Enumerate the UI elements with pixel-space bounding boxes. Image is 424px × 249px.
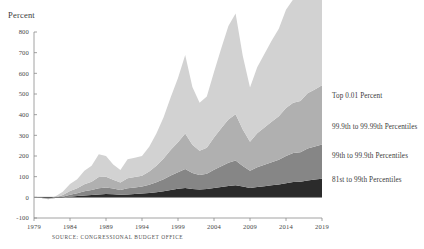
y-tick-label-200: 200 [19, 152, 30, 159]
x-tick-label-1979: 1979 [27, 223, 41, 230]
legend-label-top-0-01-percent: Top 0.01 Percent [332, 92, 382, 100]
x-tick-label-1999: 1999 [171, 223, 185, 230]
source-note: SOURCE: CONGRESSIONAL BUDGET OFFICE [52, 234, 183, 240]
x-tick-label-1994: 1994 [135, 223, 149, 230]
x-tick-label-2004: 2004 [207, 223, 221, 230]
x-tick-label-1989: 1989 [99, 223, 113, 230]
y-tick-label-300: 300 [19, 132, 30, 139]
y-tick-label-100: 100 [19, 173, 30, 180]
y-tick-label-500: 500 [19, 90, 30, 97]
x-tick-label-2019: 2019 [315, 223, 329, 230]
x-tick-label-1984: 1984 [63, 223, 77, 230]
y-tick-label-800: 800 [19, 28, 30, 35]
x-tick-label-2014: 2014 [279, 223, 293, 230]
x-tick-label-2009: 2009 [243, 223, 257, 230]
y-tick-label-600: 600 [19, 70, 30, 77]
figure-container: Percent 8007006005004003002001000-100197… [0, 0, 424, 249]
y-tick-label--100: -100 [16, 214, 29, 221]
y-tick-label-400: 400 [19, 111, 30, 118]
y-tick-label-0: 0 [26, 194, 30, 201]
legend-label-81st-to-99th-percentiles: 81st to 99th Percentiles [332, 176, 402, 184]
y-tick-label-700: 700 [19, 49, 30, 56]
legend-label-99-9th-to-99-99th-percentiles: 99.9th to 99.99th Percentiles [332, 123, 417, 131]
legend-label-99th-to-99-9th-percentiles: 99th to 99.9th Percentiles [332, 152, 408, 160]
